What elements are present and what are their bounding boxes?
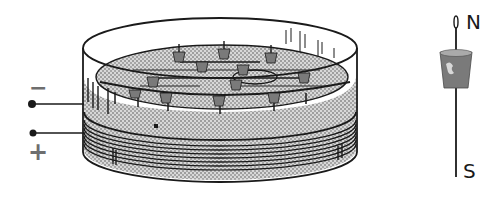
south-pole-label: S xyxy=(463,161,476,181)
negative-terminal xyxy=(28,100,36,108)
terminal-leads xyxy=(28,100,84,137)
dish-container xyxy=(83,18,357,182)
cork-float xyxy=(440,52,472,88)
north-pole-label: N xyxy=(466,12,481,32)
surface-mark xyxy=(154,124,158,128)
negative-pole-label: − xyxy=(29,77,47,99)
floating-needle-compass xyxy=(440,16,472,177)
diagram-canvas xyxy=(0,0,494,202)
positive-terminal xyxy=(30,130,37,137)
cork-top xyxy=(440,50,472,57)
needle-eye xyxy=(454,16,458,28)
diagram-figure: − + N S xyxy=(0,0,494,202)
positive-pole-label: + xyxy=(28,140,48,164)
